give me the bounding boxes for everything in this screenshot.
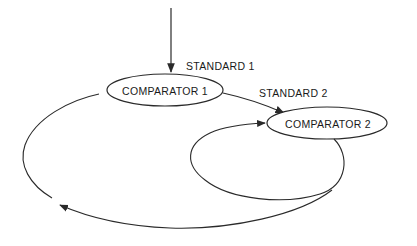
outer-loop-bottom <box>60 190 332 228</box>
comparator-2-label: COMPARATOR 2 <box>285 119 371 130</box>
standard-1-label: STANDARD 1 <box>186 61 255 72</box>
standard-2-label: STANDARD 2 <box>259 88 328 99</box>
outer-loop-left <box>23 94 99 198</box>
comparator-1-label: COMPARATOR 1 <box>122 86 208 97</box>
